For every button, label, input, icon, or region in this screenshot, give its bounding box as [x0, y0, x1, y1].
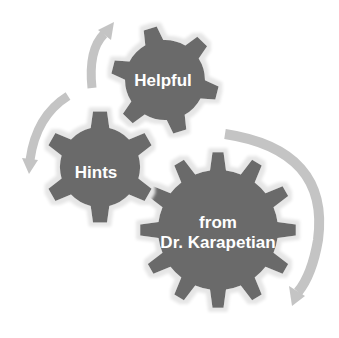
gear-label-hints: Hints — [75, 163, 118, 182]
gear-label-dr-karapetian: Dr. Karapetian — [160, 233, 275, 252]
gear-label-from: from — [199, 213, 237, 232]
gear-label-helpful: Helpful — [134, 71, 192, 90]
gear-diagram: Helpful Hints from Dr. Karapetian — [0, 0, 339, 338]
arrow-up-icon — [91, 22, 114, 88]
